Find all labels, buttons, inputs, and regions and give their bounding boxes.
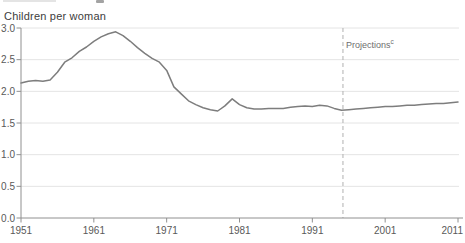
x-tick-label-1971: 1971 (156, 225, 179, 236)
x-tick-label-2001: 2001 (374, 225, 397, 236)
y-tick-label-2.0: 2.0 (1, 86, 15, 97)
x-tick-label-1991: 1991 (301, 225, 324, 236)
x-tick-label-2011: 2011 (441, 225, 463, 236)
x-tick-label-1961: 1961 (83, 225, 106, 236)
y-tick-label-3.0: 3.0 (1, 23, 15, 34)
y-tick-label-0.0: 0.0 (1, 213, 15, 224)
children-per-woman-line-chart: 0.00.51.01.52.02.53.01951196119711981199… (0, 0, 465, 243)
y-tick-label-1.0: 1.0 (1, 149, 15, 160)
projections-annotation-footnote-marker: c (390, 38, 393, 45)
projections-annotation: Projectionsc (346, 38, 394, 50)
y-tick-label-1.5: 1.5 (1, 118, 15, 129)
fertility-chart-panel: Children per woman 0.00.51.01.52.02.53.0… (0, 0, 465, 243)
y-tick-label-0.5: 0.5 (1, 181, 15, 192)
y-tick-label-2.5: 2.5 (1, 54, 15, 65)
projections-annotation-text: Projections (346, 40, 391, 50)
x-tick-label-1981: 1981 (228, 225, 251, 236)
x-tick-label-1951: 1951 (10, 225, 33, 236)
